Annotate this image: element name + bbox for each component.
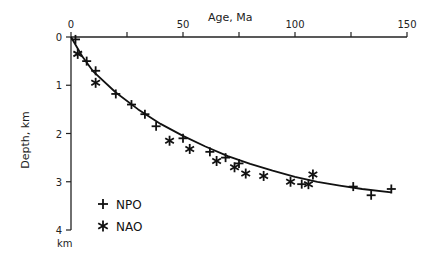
y-tick-label: 3 (56, 177, 62, 188)
data-points (71, 35, 396, 200)
asterisk-marker-icon (91, 78, 100, 88)
plus-marker-icon (71, 35, 80, 44)
asterisk-marker-icon (259, 171, 268, 181)
series-nao (73, 49, 317, 189)
asterisk-marker-icon (241, 169, 250, 179)
asterisk-marker-icon (165, 136, 174, 146)
y-tick-label: 0 (56, 32, 62, 43)
asterisk-marker-icon (309, 170, 318, 180)
asterisk-marker-icon (286, 177, 295, 187)
y-tick-label: 1 (56, 80, 62, 91)
age-depth-chart: 05010015001234 NPONAO Age, Ma Depth, km … (0, 0, 424, 259)
legend-label: NAO (116, 220, 142, 234)
x-tick-label: 150 (397, 19, 416, 30)
asterisk-marker-icon (212, 156, 221, 166)
y-tick-label: 4 (56, 225, 62, 236)
plus-marker-icon (205, 147, 214, 156)
y-tick-label: 2 (56, 129, 62, 140)
plus-marker-icon (367, 191, 376, 200)
y-axis-title: Depth, km (19, 111, 32, 169)
axes: 05010015001234 (56, 19, 417, 236)
x-tick-label: 50 (177, 19, 190, 30)
plus-marker-icon (297, 180, 306, 189)
asterisk-marker-icon (98, 221, 108, 232)
legend: NPONAO (98, 198, 142, 234)
x-tick-label: 100 (285, 19, 304, 30)
plus-marker-icon (349, 182, 358, 191)
plus-marker-icon (98, 199, 108, 209)
y-axis-unit: km (57, 238, 73, 249)
x-axis-title: Age, Ma (208, 11, 253, 24)
legend-item-npo: NPO (98, 198, 142, 212)
asterisk-marker-icon (185, 144, 194, 154)
series-npo (71, 35, 396, 200)
legend-item-nao: NAO (98, 220, 142, 234)
legend-label: NPO (116, 198, 142, 212)
plus-marker-icon (91, 66, 100, 75)
x-tick-label: 0 (68, 19, 74, 30)
